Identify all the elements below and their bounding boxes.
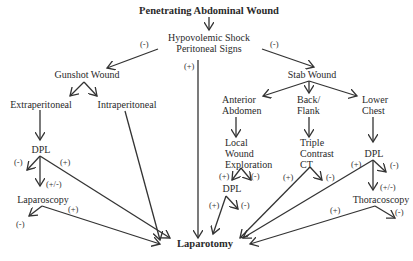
sign-chest-dpl-neg: (-) <box>390 161 399 170</box>
sign-ct-pos: (+) <box>283 173 293 182</box>
node-hypovolemic-shock-peritoneal-signs: Hypovolemic Shock Peritoneal Signs <box>150 32 268 54</box>
node-line: Chest <box>362 105 392 116</box>
node-stab-wound: Stab Wound <box>284 69 340 80</box>
sign-lwe-neg: (-) <box>251 172 260 181</box>
node-intraperitoneal: Intraperitoneal <box>97 99 157 110</box>
sign-shock-to-stab: (-) <box>270 40 279 49</box>
node-anterior-dpl: DPL <box>220 183 244 194</box>
node-line: Contrast <box>300 148 340 159</box>
sign-thoracoscopy-pos: (+) <box>330 206 340 215</box>
trauma-algorithm-flowchart: Penetrating Abdominal Wound Hypovolemic … <box>0 0 413 261</box>
node-laparotomy: Laparotomy <box>165 238 245 249</box>
node-thoracoscopy: Thoracoscopy <box>350 194 412 205</box>
node-laparoscopy: Laparoscopy <box>14 194 72 205</box>
node-line: Abdomen <box>222 105 268 116</box>
sign-laparoscopy-neg: (-) <box>16 220 25 229</box>
sign-laparoscopy-pos: (+) <box>68 205 78 214</box>
sign-lwe-pos: (+) <box>219 172 229 181</box>
sign-ant-dpl-pos: (+) <box>209 201 219 210</box>
node-line: CT <box>300 159 340 170</box>
node-line: Peritoneal Signs <box>150 43 268 54</box>
sign-gsw-dpl-pos: (+) <box>60 158 70 167</box>
node-line: Local <box>225 137 271 148</box>
node-line: Exploration <box>225 159 271 170</box>
node-line: Anterior <box>222 94 268 105</box>
node-local-wound-exploration: Local Wound Exploration <box>225 137 271 170</box>
sign-gsw-dpl-neg: (-) <box>14 158 23 167</box>
sign-ct-neg: (-) <box>326 173 335 182</box>
node-line: Hypovolemic Shock <box>150 32 268 43</box>
node-gunshot-wound: Gunshot Wound <box>52 69 122 80</box>
node-line: Flank <box>297 105 327 116</box>
title-penetrating-abdominal-wound: Penetrating Abdominal Wound <box>120 5 298 16</box>
sign-gsw-dpl-equivocal: (+/-) <box>46 180 62 189</box>
sign-chest-dpl-pos: (+) <box>351 160 361 169</box>
node-anterior-abdomen: Anterior Abdomen <box>222 94 268 116</box>
node-chest-dpl: DPL <box>362 148 386 159</box>
node-line: Lower <box>362 94 392 105</box>
node-extraperitoneal: Extraperitoneal <box>10 99 72 110</box>
node-line: Back/ <box>297 94 327 105</box>
node-line: Triple <box>300 137 340 148</box>
node-line: Wound <box>225 148 271 159</box>
sign-chest-dpl-equivocal: (+/-) <box>380 183 396 192</box>
node-gsw-dpl: DPL <box>28 144 54 155</box>
sign-ant-dpl-neg: (-) <box>241 201 250 210</box>
node-lower-chest: Lower Chest <box>362 94 392 116</box>
sign-shock-to-laparotomy: (+) <box>184 62 194 71</box>
sign-shock-to-gunshot: (-) <box>140 40 149 49</box>
sign-thoracoscopy-neg: (-) <box>395 208 404 217</box>
node-triple-contrast-ct: Triple Contrast CT <box>300 137 340 170</box>
node-back-flank: Back/ Flank <box>297 94 327 116</box>
